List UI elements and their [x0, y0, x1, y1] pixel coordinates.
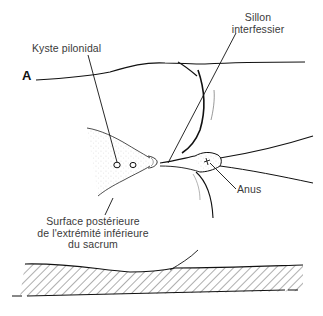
label-sillon-interfessier: Sillon interfessier [218, 12, 298, 35]
sacral-region [87, 128, 150, 195]
right-buttock-lower [220, 166, 313, 183]
leader-sillon [168, 33, 236, 163]
label-sillon-line2: interfessier [218, 24, 298, 36]
label-surface-sacrum: Surface postérieure de l'extrémité infér… [28, 216, 158, 251]
left-buttock-curve [182, 70, 204, 153]
label-sillon-line1: Sillon [218, 12, 298, 24]
label-kyste-pilonidal: Kyste pilonidal [32, 43, 101, 55]
cleft-line-upper [160, 156, 195, 163]
anus-outline [195, 152, 221, 172]
lower-buttock-curve [196, 172, 213, 218]
cleft-line-lower [160, 166, 200, 172]
leader-surface [105, 198, 113, 215]
upper-buttock-contour [36, 62, 305, 80]
table-hatching [20, 264, 303, 296]
label-anus: Anus [237, 184, 261, 196]
label-surface-line3: du sacrum [28, 239, 158, 251]
anatomical-diagram: A Kyste pilonidal Sillon interfessier An… [0, 0, 323, 316]
panel-letter: A [22, 68, 31, 83]
label-surface-line1: Surface postérieure [28, 216, 158, 228]
right-buttock-upper [220, 136, 313, 158]
